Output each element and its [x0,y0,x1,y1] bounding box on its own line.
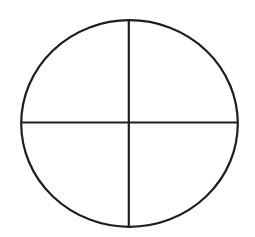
quadrant-circle-diagram [0,0,255,237]
background [0,0,255,237]
diagram-canvas [0,0,255,237]
